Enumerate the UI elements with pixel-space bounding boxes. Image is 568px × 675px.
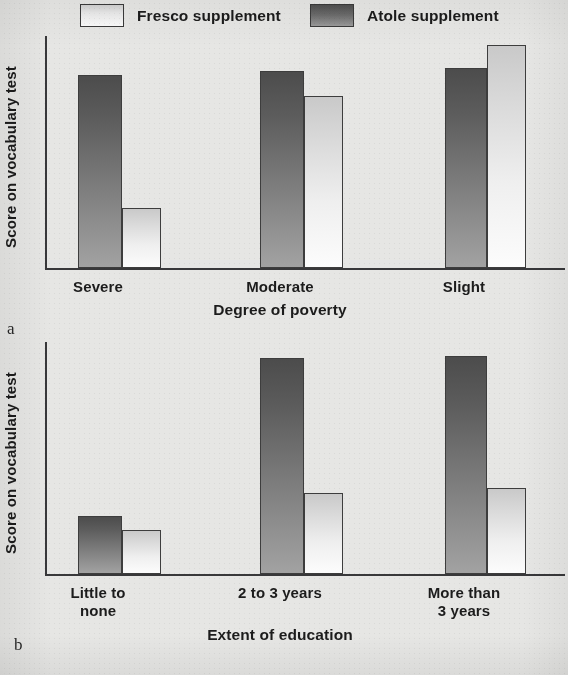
- bar-fresco-little-to-none: [122, 530, 161, 574]
- tick-label-b-2: More than 3 years: [399, 584, 529, 620]
- panel-a: Score on vocabulary test Severe Moderate…: [0, 34, 568, 334]
- legend-label-fresco: Fresco supplement: [137, 7, 281, 25]
- legend-entry-fresco: Fresco supplement: [80, 4, 281, 27]
- bar-atole-moderate: [260, 71, 304, 268]
- tick-label-b-1: 2 to 3 years: [215, 584, 345, 602]
- plot-area-b: [45, 342, 565, 576]
- y-axis-label-a: Score on vocabulary test: [2, 42, 19, 272]
- tick-label-a-1: Moderate: [215, 278, 345, 296]
- y-axis-label-b: Score on vocabulary test: [2, 348, 19, 578]
- light-swatch-icon: [80, 4, 124, 27]
- tick-label-a-0: Severe: [33, 278, 163, 296]
- panel-b: Score on vocabulary test Little to none …: [0, 340, 568, 675]
- bar-atole-little-to-none: [78, 516, 122, 574]
- bar-fresco-severe: [122, 208, 161, 268]
- tick-label-b-0: Little to none: [33, 584, 163, 620]
- figure-container: Fresco supplement Atole supplement Score…: [0, 0, 568, 675]
- legend-entry-atole: Atole supplement: [310, 4, 499, 27]
- tick-label-a-2: Slight: [399, 278, 529, 296]
- bar-fresco-moderate: [304, 96, 343, 268]
- legend-label-atole: Atole supplement: [367, 7, 499, 25]
- bar-atole-slight: [445, 68, 487, 268]
- bar-atole-2-to-3-years: [260, 358, 304, 574]
- dark-swatch-icon: [310, 4, 354, 27]
- x-axis-label-b: Extent of education: [155, 626, 405, 644]
- plot-area-a: [45, 36, 565, 270]
- bar-fresco-slight: [487, 45, 526, 268]
- panel-letter-b: b: [14, 635, 23, 655]
- x-axis-label-a: Degree of poverty: [155, 301, 405, 319]
- bar-fresco-more-than-3-years: [487, 488, 526, 574]
- bar-fresco-2-to-3-years: [304, 493, 343, 574]
- bar-atole-more-than-3-years: [445, 356, 487, 574]
- bar-atole-severe: [78, 75, 122, 268]
- legend: Fresco supplement Atole supplement: [0, 0, 568, 34]
- panel-letter-a: a: [7, 319, 15, 339]
